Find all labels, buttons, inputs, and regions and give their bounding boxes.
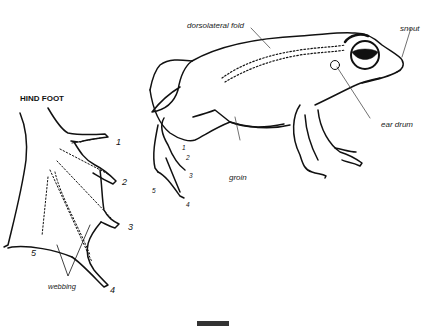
- frog-toe-3-label: 3: [189, 172, 193, 179]
- foot-toe-2-label: 2: [122, 177, 127, 187]
- frog-toe-1-label: 1: [182, 144, 186, 151]
- ear-drum-label: ear drum: [381, 120, 413, 129]
- foot-toe-4-label: 4: [110, 285, 115, 295]
- frog-anatomy-drawing: [0, 0, 440, 326]
- frog-toe-4-label: 4: [186, 201, 190, 208]
- foot-bones: [42, 138, 112, 262]
- frog-toe-5-label: 5: [152, 187, 156, 194]
- bottom-edge-bar: [197, 321, 229, 326]
- dorsolateral-fold-dots: [222, 45, 345, 82]
- foot-toe-1-label: 1: [116, 137, 121, 147]
- frog-toe-2-label: 2: [186, 154, 190, 161]
- webbing-label: webbing: [48, 282, 76, 291]
- groin-label: groin: [229, 173, 247, 182]
- hind-foot-drawing: [4, 108, 119, 287]
- hind-foot-title: HIND FOOT: [20, 94, 64, 103]
- dorsolateral-fold-label: dorsolateral fold: [187, 21, 244, 30]
- snout-label: snout: [400, 24, 420, 33]
- foot-toe-5-label: 5: [31, 248, 36, 258]
- foot-toe-3-label: 3: [128, 222, 133, 232]
